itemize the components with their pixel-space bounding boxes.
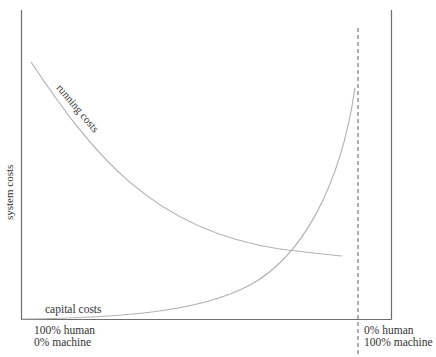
x-left-line2: 0% machine <box>34 336 95 348</box>
cost-diagram: system costs running costs capital costs <box>0 0 436 357</box>
capital-costs-label: capital costs <box>45 303 102 316</box>
capital-costs-curve <box>22 88 355 319</box>
x-left-line1: 100% human <box>34 324 95 336</box>
x-right-line1: 0% human <box>364 324 433 336</box>
x-right-line2: 100% machine <box>364 336 433 348</box>
y-axis-label: system costs <box>3 165 15 220</box>
running-costs-label: running costs <box>54 82 101 135</box>
running-costs-curve <box>31 62 342 256</box>
x-right-label: 0% human 100% machine <box>364 324 433 348</box>
x-left-label: 100% human 0% machine <box>34 324 95 348</box>
